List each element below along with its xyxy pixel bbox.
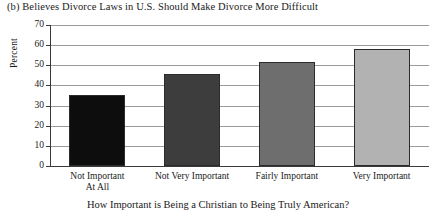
chart-figure: (b) Believes Divorce Laws in U.S. Should… bbox=[0, 0, 436, 215]
x-axis-tick-label: Not ImportantAt All bbox=[50, 171, 145, 192]
bar bbox=[259, 62, 315, 166]
x-axis-tick-label-line: Not Important bbox=[50, 171, 145, 182]
plot-area bbox=[50, 25, 429, 166]
y-axis-line bbox=[50, 25, 51, 167]
chart-title: (b) Believes Divorce Laws in U.S. Should… bbox=[7, 1, 318, 12]
y-axis-tick-label: 0 bbox=[14, 161, 44, 171]
bar bbox=[164, 74, 220, 166]
gridline bbox=[50, 45, 429, 46]
x-axis-line bbox=[50, 166, 429, 167]
x-axis-tick-label-line: At All bbox=[50, 182, 145, 193]
bar bbox=[354, 49, 410, 166]
x-axis-title: How Important is Being a Christian to Be… bbox=[0, 199, 436, 210]
x-axis-tick-label: Fairly Important bbox=[240, 171, 335, 182]
gridline bbox=[50, 25, 429, 26]
y-axis-tick-label: 60 bbox=[14, 40, 44, 50]
x-axis-tick-label: Very Important bbox=[334, 171, 429, 182]
y-axis-tick-label: 40 bbox=[14, 80, 44, 90]
x-axis-tick-label-line: Fairly Important bbox=[240, 171, 335, 182]
x-axis-tick-label-line: Very Important bbox=[334, 171, 429, 182]
x-axis-tick-label: Not Very Important bbox=[145, 171, 240, 182]
bar bbox=[69, 95, 125, 167]
y-axis-tick-label: 50 bbox=[14, 60, 44, 70]
y-axis-tick-label: 30 bbox=[14, 101, 44, 111]
y-axis-tick-label: 70 bbox=[14, 20, 44, 30]
y-axis-tick-label: 20 bbox=[14, 121, 44, 131]
y-axis-tick-label: 10 bbox=[14, 141, 44, 151]
x-axis-tick-label-line: Not Very Important bbox=[145, 171, 240, 182]
